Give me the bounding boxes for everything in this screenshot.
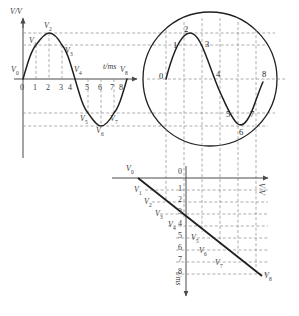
magnifier-guides xyxy=(166,18,256,268)
projection-axes xyxy=(112,166,268,296)
projection-diagonal xyxy=(138,178,262,276)
wave-plot-axes xyxy=(14,18,137,158)
physics-waveform-figure xyxy=(0,0,299,316)
